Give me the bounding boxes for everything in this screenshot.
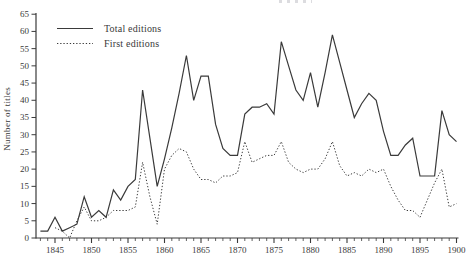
x-tick-label: 1885 [338,245,357,255]
y-tick-label: 10 [20,199,30,209]
y-tick-label: 5 [25,216,30,226]
x-tick-label: 1860 [156,245,175,255]
y-tick-label: 40 [20,95,30,105]
y-tick-label: 35 [20,112,30,122]
x-tick-label: 1850 [83,245,102,255]
x-axis: 1845185018551860186518701875188018851890… [36,238,466,255]
x-tick-label: 1895 [411,245,430,255]
legend: Total editions First editions [57,21,161,51]
y-tick-label: 55 [20,44,30,54]
y-tick-label: 25 [20,147,30,157]
legend-label-total-editions: Total editions [104,23,161,34]
x-tick-label: 1900 [448,245,466,255]
dotted-line-swatch [57,40,93,47]
y-tick-label: 30 [20,130,30,140]
x-tick-label: 1880 [302,245,321,255]
y-tick-label: 0 [25,233,30,243]
solid-line-swatch [57,25,93,32]
x-tick-label: 1855 [119,245,138,255]
y-tick-label: 20 [20,164,30,174]
y-tick-label: 60 [20,26,30,36]
series-line-first-editions [55,142,457,238]
y-tick-label: 15 [20,181,30,191]
series-line-total-editions [40,35,456,231]
x-tick-label: 1875 [265,245,284,255]
y-tick-label: 50 [20,61,30,71]
legend-item-first-editions: First editions [57,36,161,51]
x-tick-label: 1870 [229,245,248,255]
x-tick-label: 1845 [46,245,65,255]
legend-item-total-editions: Total editions [57,21,161,36]
y-tick-label: 65 [20,9,30,19]
x-tick-label: 1890 [375,245,394,255]
x-tick-label: 1865 [192,245,211,255]
y-tick-label: 45 [20,78,30,88]
y-axis: 05101520253035404550556065 [20,9,36,243]
chart-figure: Number of titles 05101520253035404550556… [0,0,466,259]
legend-label-first-editions: First editions [104,38,159,49]
